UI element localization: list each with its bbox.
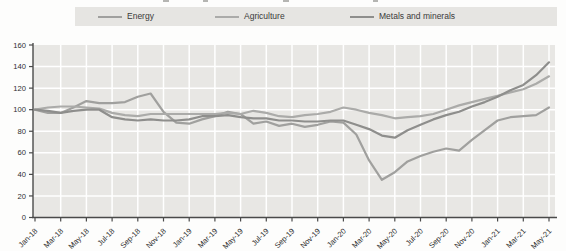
y-tick-label: 120 (13, 84, 26, 93)
x-tick-label: Nov-19 (298, 227, 322, 251)
x-tick-label: Jul-20 (404, 227, 425, 248)
x-tick-label: May-18 (67, 227, 91, 251)
x-tick-label: May-21 (529, 227, 553, 251)
x-tick-label: Jan-19 (171, 227, 194, 250)
x-tick-label: Jan-20 (325, 227, 348, 250)
x-tick-label: Jul-18 (96, 227, 117, 248)
x-tick-label: Mar-20 (350, 227, 373, 250)
y-tick-label: 140 (13, 62, 26, 71)
x-tick-label: Nov-20 (453, 227, 477, 251)
y-tick-label: 80 (18, 127, 26, 136)
x-tick-label: May-19 (221, 227, 245, 251)
x-tick-label: May-20 (375, 227, 399, 251)
y-tick-label: 0 (22, 213, 26, 222)
commodity-price-chart-panel: Energy Agriculture Metals and minerals 0… (0, 0, 566, 251)
y-tick-label: 160 (13, 41, 26, 50)
x-tick-label: Sep-18 (119, 227, 143, 251)
x-tick-label: Sep-20 (427, 227, 451, 251)
x-tick-label: Nov-18 (144, 227, 168, 251)
x-tick-label: Jul-19 (250, 227, 271, 248)
x-tick-label: Jan-21 (479, 227, 502, 250)
y-tick-label: 60 (18, 148, 26, 157)
y-tick-label: 40 (18, 170, 26, 179)
y-tick-label: 20 (18, 192, 26, 201)
x-tick-label: Jan-18 (17, 227, 40, 250)
x-tick-label: Mar-21 (504, 227, 527, 250)
x-tick-label: Mar-18 (42, 227, 65, 250)
y-tick-label: 100 (13, 105, 26, 114)
x-tick-label: Sep-19 (273, 227, 297, 251)
x-tick-label: Mar-19 (196, 227, 219, 250)
commodity-price-line-chart: 020406080100120140160Jan-18Mar-18May-18J… (0, 0, 566, 251)
